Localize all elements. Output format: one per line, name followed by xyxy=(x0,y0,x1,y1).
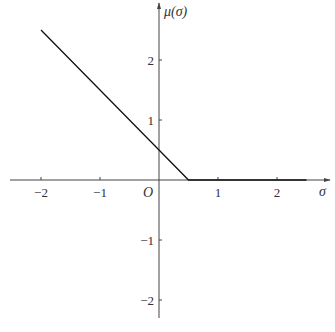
x-tick-label: 2 xyxy=(274,185,281,200)
origin-label: O xyxy=(143,185,153,200)
y-axis-label: μ(σ) xyxy=(163,4,188,20)
x-tick-label: 1 xyxy=(215,185,222,200)
mu-sigma-curve xyxy=(41,30,307,180)
x-axis-label: σ xyxy=(319,184,327,199)
y-tick-label: 1 xyxy=(148,113,155,128)
x-tick-label: −1 xyxy=(93,185,107,200)
chart: −2−11221−1−2 σ μ(σ) O xyxy=(0,0,335,332)
x-tick-label: −2 xyxy=(34,185,48,200)
y-tick-label: 2 xyxy=(148,53,155,68)
y-tick-label: −1 xyxy=(140,233,154,248)
series xyxy=(41,30,307,180)
y-tick-label: −2 xyxy=(140,293,154,308)
